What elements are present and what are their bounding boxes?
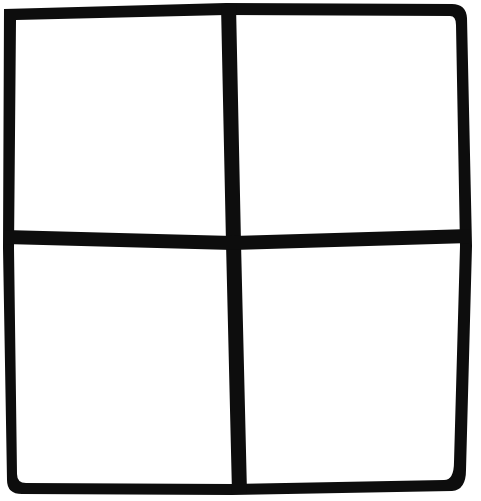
quadrant-top-left [16,14,222,233]
drawing-canvas [0,0,481,501]
quadrant-top-right [238,14,460,233]
quadrant-bottom-right [244,251,460,483]
quadrant-bottom-left [16,251,228,483]
hand-drawn-grid-figure [0,0,481,501]
